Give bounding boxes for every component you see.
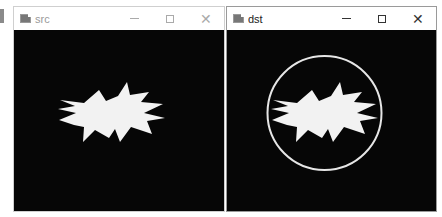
maximize-button[interactable] bbox=[152, 7, 188, 30]
close-button[interactable]: ✕ bbox=[400, 7, 436, 30]
app-icon bbox=[20, 14, 31, 23]
src-titlebar[interactable]: src ✕ bbox=[14, 7, 224, 30]
maximize-button[interactable] bbox=[364, 7, 400, 30]
starburst-shape bbox=[271, 82, 378, 142]
dst-titlebar[interactable]: dst ✕ bbox=[227, 7, 436, 30]
minimize-button[interactable] bbox=[328, 7, 364, 30]
background-window-edge bbox=[0, 9, 4, 23]
minimize-icon bbox=[130, 18, 139, 19]
app-icon bbox=[233, 14, 244, 23]
maximize-icon bbox=[378, 15, 386, 23]
window-title: src bbox=[35, 13, 50, 25]
src-image-canvas bbox=[14, 30, 224, 211]
minimize-button[interactable] bbox=[116, 7, 152, 30]
dst-image-canvas bbox=[227, 30, 436, 211]
src-window: src ✕ bbox=[13, 6, 225, 212]
window-title: dst bbox=[248, 13, 263, 25]
starburst-shape bbox=[14, 30, 224, 212]
close-button[interactable]: ✕ bbox=[188, 7, 224, 30]
starburst-with-enclosing-circle bbox=[227, 30, 436, 212]
close-icon: ✕ bbox=[412, 11, 424, 27]
dst-window: dst ✕ bbox=[226, 6, 437, 212]
close-icon: ✕ bbox=[200, 11, 212, 27]
maximize-icon bbox=[166, 15, 174, 23]
minimize-icon bbox=[342, 18, 351, 19]
